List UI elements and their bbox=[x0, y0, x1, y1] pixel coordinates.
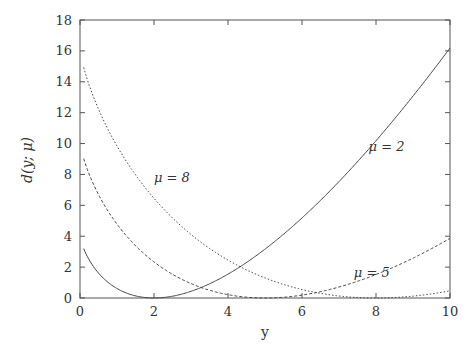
x-tick-label: 2 bbox=[150, 304, 158, 319]
y-axis: 024681012141618 bbox=[55, 13, 450, 306]
y-tick-label: 18 bbox=[55, 13, 72, 28]
curve-label-mu-5: μ = 5 bbox=[354, 265, 390, 280]
y-tick-label: 0 bbox=[64, 291, 72, 306]
plot-frame bbox=[80, 20, 450, 298]
curve-label-mu-2: μ = 2 bbox=[369, 139, 405, 154]
x-tick-label: 6 bbox=[298, 304, 306, 319]
curve-mu-5 bbox=[84, 159, 450, 298]
plot-area bbox=[80, 20, 450, 298]
curve-mu-2 bbox=[84, 48, 450, 298]
y-tick-label: 12 bbox=[55, 105, 72, 120]
curve-label-mu-8: μ = 8 bbox=[154, 170, 190, 185]
y-tick-label: 10 bbox=[55, 136, 72, 151]
y-tick-label: 6 bbox=[64, 198, 72, 213]
curve-mu-8 bbox=[84, 68, 450, 298]
x-axis-label: y bbox=[260, 324, 269, 340]
curves bbox=[84, 48, 450, 298]
y-tick-label: 8 bbox=[64, 167, 72, 182]
x-tick-label: 0 bbox=[76, 304, 84, 319]
y-tick-label: 2 bbox=[64, 260, 72, 275]
y-tick-label: 14 bbox=[55, 74, 72, 89]
deviance-chart: 0246810 024681012141618 μ = 2μ = 5μ = 8 … bbox=[0, 0, 476, 351]
x-tick-label: 10 bbox=[442, 304, 459, 319]
y-axis-label: d(y; μ) bbox=[19, 137, 35, 183]
x-tick-label: 8 bbox=[372, 304, 380, 319]
x-tick-label: 4 bbox=[224, 304, 232, 319]
y-tick-label: 4 bbox=[64, 229, 72, 244]
curve-labels: μ = 2μ = 5μ = 8 bbox=[154, 139, 404, 281]
x-axis: 0246810 bbox=[76, 20, 458, 319]
y-tick-label: 16 bbox=[55, 43, 72, 58]
